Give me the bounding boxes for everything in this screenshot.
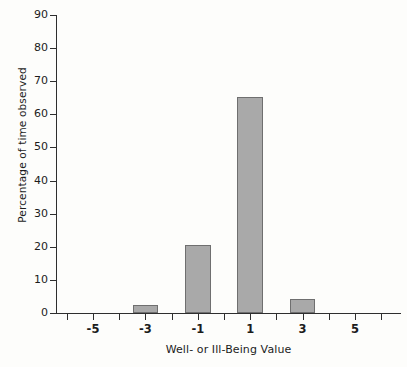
x-tick-label: 1 <box>235 323 265 335</box>
x-tick-mark <box>329 314 330 320</box>
y-axis-line <box>56 15 57 314</box>
y-tick-label: 80 <box>18 42 48 53</box>
y-tick-label: 10 <box>18 274 48 285</box>
y-tick-mark <box>50 214 56 215</box>
bar <box>185 245 211 313</box>
x-tick-mark <box>224 314 225 320</box>
bar <box>133 305 159 313</box>
y-tick-mark <box>50 181 56 182</box>
x-tick-label: 5 <box>340 323 370 335</box>
y-tick-mark <box>50 280 56 281</box>
x-tick-mark <box>93 314 94 320</box>
y-tick-mark <box>50 147 56 148</box>
y-tick-label: 30 <box>18 208 48 219</box>
bar <box>237 97 263 313</box>
x-tick-mark <box>303 314 304 320</box>
x-tick-mark <box>381 314 382 320</box>
y-tick-label: 60 <box>18 108 48 119</box>
y-tick-mark <box>50 247 56 248</box>
y-tick-mark <box>50 114 56 115</box>
bar <box>290 299 316 313</box>
x-axis-label: Well- or Ill-Being Value <box>56 343 401 356</box>
y-tick-label: 90 <box>18 9 48 20</box>
y-tick-label: 40 <box>18 175 48 186</box>
x-tick-label: -3 <box>130 323 160 335</box>
y-tick-label: 20 <box>18 241 48 252</box>
x-axis-line <box>56 313 401 314</box>
x-tick-mark <box>67 314 68 320</box>
x-tick-label: -1 <box>183 323 213 335</box>
x-tick-mark <box>172 314 173 320</box>
y-tick-mark <box>50 15 56 16</box>
y-tick-mark <box>50 81 56 82</box>
y-tick-label: 50 <box>18 141 48 152</box>
x-tick-mark <box>145 314 146 320</box>
y-tick-mark <box>50 313 56 314</box>
x-tick-mark <box>198 314 199 320</box>
x-tick-mark <box>119 314 120 320</box>
bar-chart: Percentage of time observed 908070605040… <box>0 0 407 367</box>
x-tick-mark <box>250 314 251 320</box>
x-tick-label: 3 <box>288 323 318 335</box>
x-tick-mark <box>276 314 277 320</box>
y-tick-label: 70 <box>18 75 48 86</box>
x-tick-mark <box>355 314 356 320</box>
y-tick-mark <box>50 48 56 49</box>
x-tick-label: -5 <box>78 323 108 335</box>
y-tick-label: 0 <box>18 307 48 318</box>
